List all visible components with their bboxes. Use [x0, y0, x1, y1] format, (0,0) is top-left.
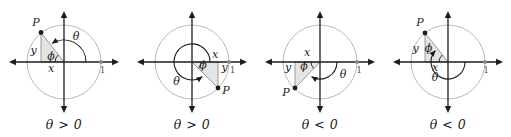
y-axis-down-arrow-icon	[317, 106, 323, 113]
y-axis-up-arrow-icon	[317, 11, 323, 18]
caption: θ < 0	[302, 117, 338, 132]
y-axis-down-arrow-icon	[61, 106, 67, 113]
point-p-dot	[293, 86, 298, 91]
phi-label: ϕ	[300, 60, 308, 73]
point-p-label: P	[415, 16, 424, 29]
x-axis-left-arrow-icon	[9, 59, 16, 65]
y-axis-down-arrow-icon	[445, 106, 451, 113]
y-axis-up-arrow-icon	[61, 11, 67, 18]
point-p-dot	[39, 30, 44, 35]
point-p-dot	[216, 86, 221, 91]
phi-label: ϕ	[199, 59, 207, 72]
figure-row: P y x ϕ θ 1 θ > 0	[0, 0, 511, 137]
x-axis-right-arrow-icon	[112, 59, 119, 65]
point-p-label: P	[281, 86, 290, 99]
phi-label: ϕ	[425, 42, 433, 55]
unit-one-label: 1	[100, 65, 106, 75]
unit-one-label: 1	[356, 65, 362, 75]
unit-point-dot	[483, 60, 487, 64]
angle-diagram-3: P x y ϕ θ 1 θ < 0	[256, 0, 384, 137]
panel-3: P x y ϕ θ 1 θ < 0	[256, 0, 384, 137]
panel-1: P y x ϕ θ 1 θ > 0	[0, 0, 128, 137]
x-axis-right-arrow-icon	[368, 59, 375, 65]
x-axis-left-arrow-icon	[393, 59, 400, 65]
panel-4: P y x ϕ θ 1 θ < 0	[384, 0, 511, 137]
theta-label: θ	[173, 75, 180, 88]
x-leg-label: x	[48, 62, 55, 75]
y-leg-label: y	[220, 61, 228, 74]
y-axis-up-arrow-icon	[445, 11, 451, 18]
x-axis-right-arrow-icon	[496, 59, 503, 65]
point-p-label: P	[221, 84, 230, 97]
point-p-dot	[423, 31, 428, 36]
caption: θ > 0	[46, 117, 82, 132]
panel-2: P x y ϕ θ 1 θ > 0	[128, 0, 256, 137]
x-leg-label: x	[212, 48, 219, 61]
theta-label: θ	[73, 30, 80, 43]
phi-label: ϕ	[47, 50, 55, 63]
angle-diagram-2: P x y ϕ θ 1 θ > 0	[128, 0, 256, 137]
x-axis-left-arrow-icon	[137, 59, 144, 65]
point-p-label: P	[31, 16, 40, 29]
y-leg-label: y	[284, 61, 292, 74]
y-leg-label: y	[29, 44, 37, 57]
y-leg-label: y	[411, 42, 419, 55]
unit-point-dot	[355, 60, 359, 64]
unit-point-dot	[99, 60, 103, 64]
unit-one-label: 1	[230, 65, 236, 75]
x-axis-right-arrow-icon	[240, 59, 247, 65]
caption: θ < 0	[430, 117, 466, 132]
unit-one-label: 1	[483, 65, 489, 75]
theta-label: θ	[432, 71, 439, 84]
angle-diagram-4: P y x ϕ θ 1 θ < 0	[384, 0, 511, 137]
y-axis-down-arrow-icon	[189, 106, 195, 113]
caption: θ > 0	[174, 117, 210, 132]
x-leg-label: x	[304, 46, 311, 59]
x-axis-left-arrow-icon	[265, 59, 272, 65]
theta-label: θ	[340, 68, 347, 81]
angle-diagram-1: P y x ϕ θ 1 θ > 0	[0, 0, 128, 137]
y-axis-up-arrow-icon	[189, 11, 195, 18]
